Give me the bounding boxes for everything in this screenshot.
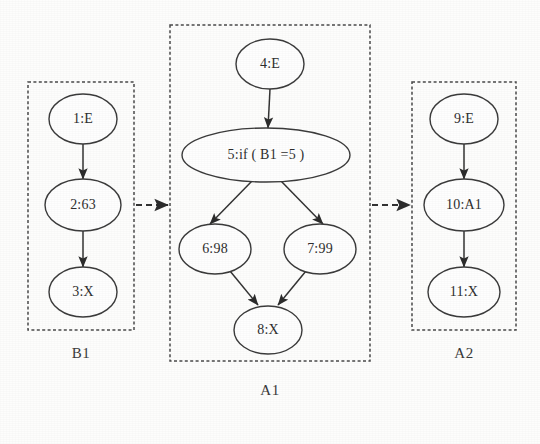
node-label-n6: 6:98 <box>202 241 228 256</box>
group-caption-a1: A1 <box>260 382 280 398</box>
node-label-n10: 10:A1 <box>446 197 482 212</box>
edge-n5-to-n7 <box>281 181 323 224</box>
group-caption-b1: B1 <box>72 345 91 361</box>
node-label-n3: 3:X <box>72 284 94 299</box>
group-caption-a2: A2 <box>454 345 474 361</box>
edge-n4-to-n5 <box>268 89 270 128</box>
node-label-n2: 2:63 <box>70 197 96 212</box>
flow-graph-svg: 1:E2:633:X4:E5:if ( B1 =5 )6:987:998:X9:… <box>0 0 540 444</box>
node-label-n9: 9:E <box>454 111 474 126</box>
edges-layer <box>83 89 464 305</box>
node-label-n8: 8:X <box>257 322 279 337</box>
edge-n5-to-n6 <box>210 181 252 224</box>
node-label-n11: 11:X <box>450 284 478 299</box>
nodes-layer: 1:E2:633:X4:E5:if ( B1 =5 )6:987:998:X9:… <box>45 39 504 354</box>
node-label-n5: 5:if ( B1 =5 ) <box>228 147 305 163</box>
node-label-n4: 4:E <box>260 56 280 71</box>
edge-n7-to-n8 <box>278 271 306 305</box>
edge-n6-to-n8 <box>230 271 258 305</box>
diagram-canvas: 1:E2:633:X4:E5:if ( B1 =5 )6:987:998:X9:… <box>0 0 540 444</box>
node-label-n7: 7:99 <box>307 241 333 256</box>
node-label-n1: 1:E <box>73 111 93 126</box>
